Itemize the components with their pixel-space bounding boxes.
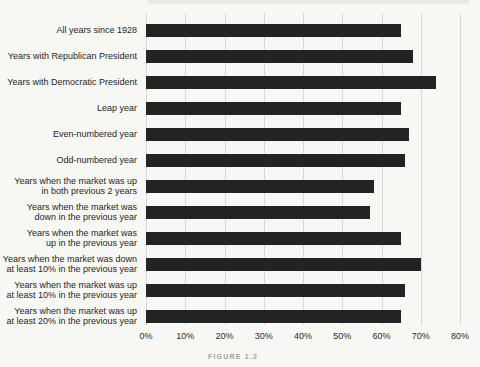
bar-track	[146, 277, 460, 303]
chart-row: Years when the market was up at least 20…	[0, 303, 480, 329]
chart-row: Years when the market was up in both pre…	[0, 173, 480, 199]
figure-caption: FIGURE 1.2	[0, 353, 466, 360]
x-tick-label: 30%	[255, 331, 273, 341]
category-label: Years when the market was up in the prev…	[0, 228, 146, 249]
chart-row: All years since 1928	[0, 17, 480, 43]
category-label: Years with Republican President	[0, 51, 146, 62]
x-tick-label: 80%	[451, 331, 469, 341]
chart-row: Years with Democratic President	[0, 69, 480, 95]
bar-track	[146, 173, 460, 199]
scan-artifact	[148, 0, 470, 3]
bar	[146, 154, 405, 167]
category-label: Years when the market was up at least 20…	[0, 306, 146, 327]
category-label: Odd-numbered year	[0, 155, 146, 166]
x-tick-label: 40%	[294, 331, 312, 341]
chart-row: Years when the market was up in the prev…	[0, 225, 480, 251]
chart-row: Years when the market was down in the pr…	[0, 199, 480, 225]
bar	[146, 102, 401, 115]
x-tick-label: 60%	[372, 331, 390, 341]
bar	[146, 128, 409, 141]
category-label: Years when the market was down at least …	[0, 254, 146, 275]
category-label: Years when the market was up in both pre…	[0, 176, 146, 197]
chart-row: Even-numbered year	[0, 121, 480, 147]
x-tick-label: 70%	[412, 331, 430, 341]
category-label: Even-numbered year	[0, 129, 146, 140]
bar	[146, 310, 401, 323]
category-label: Years when the market was down in the pr…	[0, 202, 146, 223]
bar-track	[146, 199, 460, 225]
bar	[146, 76, 436, 89]
chart-row: Years when the market was up at least 10…	[0, 277, 480, 303]
bar-track	[146, 147, 460, 173]
bar	[146, 24, 401, 37]
category-label: All years since 1928	[0, 25, 146, 36]
bar	[146, 206, 370, 219]
book-figure-page: All years since 1928Years with Republica…	[0, 0, 480, 367]
bar-track	[146, 121, 460, 147]
bar	[146, 258, 421, 271]
bar-track	[146, 95, 460, 121]
bar-track	[146, 251, 460, 277]
category-label: Years when the market was up at least 10…	[0, 280, 146, 301]
bar-track	[146, 43, 460, 69]
bar-track	[146, 225, 460, 251]
chart-row: Years with Republican President	[0, 43, 480, 69]
category-label: Years with Democratic President	[0, 77, 146, 88]
bar	[146, 180, 374, 193]
bar-track	[146, 303, 460, 329]
x-tick-label: 10%	[176, 331, 194, 341]
bar-track	[146, 69, 460, 95]
bar	[146, 232, 401, 245]
x-tick-label: 50%	[333, 331, 351, 341]
chart-row: Odd-numbered year	[0, 147, 480, 173]
bar	[146, 50, 413, 63]
bar-track	[146, 17, 460, 43]
bar-rows: All years since 1928Years with Republica…	[0, 17, 480, 329]
x-axis: 0%10%20%30%40%50%60%70%80%	[146, 331, 460, 343]
x-tick-label: 0%	[139, 331, 152, 341]
chart-row: Years when the market was down at least …	[0, 251, 480, 277]
x-tick-label: 20%	[215, 331, 233, 341]
chart-row: Leap year	[0, 95, 480, 121]
category-label: Leap year	[0, 103, 146, 114]
bar	[146, 284, 405, 297]
